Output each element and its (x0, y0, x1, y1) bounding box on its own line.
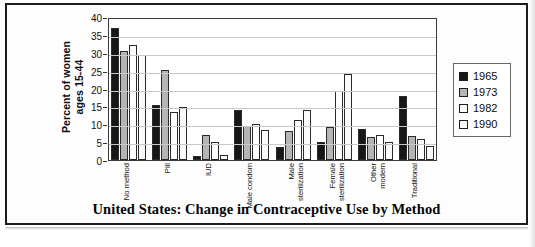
bar-1973[interactable] (408, 136, 416, 160)
bar-series-container (109, 19, 436, 160)
bar-1965[interactable] (193, 156, 201, 160)
x-tick-label: No method (122, 163, 131, 233)
y-tick-label: 10 (91, 120, 102, 131)
legend-swatch-icon (459, 88, 468, 97)
y-tick-label: 20 (91, 84, 102, 95)
y-tick-mark (103, 161, 107, 162)
gridline (109, 55, 436, 56)
bar-group (234, 19, 271, 160)
bar-group (152, 19, 189, 160)
legend-item-1990[interactable]: 1990 (459, 116, 506, 132)
y-tick-mark (103, 125, 107, 126)
gridline (109, 144, 436, 145)
x-tick-label: IUD (204, 163, 213, 233)
bar-1982[interactable] (252, 124, 260, 160)
y-tick-mark (103, 18, 107, 19)
bar-1973[interactable] (285, 131, 293, 160)
y-tick-mark (103, 90, 107, 91)
y-tick-mark (103, 54, 107, 55)
y-tick-mark (103, 143, 107, 144)
gridline (109, 108, 436, 109)
gridline (109, 91, 436, 92)
bar-group (193, 19, 230, 160)
bar-group (317, 19, 354, 160)
x-tick-label: Pill (163, 163, 172, 233)
gridline (109, 73, 436, 74)
bar-1990[interactable] (261, 130, 269, 160)
bar-1982[interactable] (170, 112, 178, 160)
y-tick-label: 0 (96, 156, 102, 167)
gridline (109, 37, 436, 38)
y-tick-label: 35 (91, 30, 102, 41)
x-tick-label: Traditional (410, 163, 419, 233)
bar-1973[interactable] (367, 137, 375, 160)
bar-1973[interactable] (161, 70, 169, 160)
bar-group (111, 19, 148, 160)
bar-1965[interactable] (399, 96, 407, 160)
bar-1982[interactable] (129, 45, 137, 160)
y-tick-mark (103, 107, 107, 108)
legend-swatch-icon (459, 72, 468, 81)
chart-area: Percent of women ages 15-44 051015202530… (7, 5, 526, 223)
y-tick-label: 5 (96, 138, 102, 149)
bar-1990[interactable] (344, 74, 352, 161)
bar-group (358, 19, 395, 160)
y-tick-label: 25 (91, 66, 102, 77)
legend-item-1982[interactable]: 1982 (459, 100, 506, 116)
bar-1982[interactable] (376, 135, 384, 160)
y-tick-label: 15 (91, 102, 102, 113)
y-tick-mark (103, 36, 107, 37)
bar-1965[interactable] (276, 147, 284, 160)
legend-label: 1982 (473, 103, 497, 114)
scanned-page: Percent of women ages 15-44 051015202530… (0, 0, 535, 247)
y-axis-ticks: 0510152025303540 (79, 18, 107, 161)
x-tick-label: Other modern (369, 163, 388, 233)
bar-group (276, 19, 313, 160)
bar-group (399, 19, 436, 160)
legend-label: 1990 (473, 119, 497, 130)
gridline (109, 126, 436, 127)
scan-edge (529, 0, 535, 247)
legend-label: 1973 (473, 87, 497, 98)
legend-item-1965[interactable]: 1965 (459, 68, 506, 84)
x-tick-label: Male condom (245, 163, 254, 233)
bar-1990[interactable] (220, 155, 228, 160)
bar-1990[interactable] (426, 146, 434, 160)
x-tick-label: Female sterilization (328, 163, 347, 233)
bar-1990[interactable] (179, 107, 187, 160)
legend-swatch-icon (459, 104, 468, 113)
y-tick-label: 40 (91, 13, 102, 24)
y-tick-mark (103, 72, 107, 73)
bar-1965[interactable] (111, 28, 119, 160)
y-tick-label: 30 (91, 48, 102, 59)
plot-box (108, 18, 437, 161)
legend-swatch-icon (459, 120, 468, 129)
bar-1982[interactable] (417, 139, 425, 160)
bar-1973[interactable] (243, 126, 251, 160)
legend-label: 1965 (473, 71, 497, 82)
chart-legend: 1965197319821990 (453, 63, 511, 137)
scan-shadow (5, 227, 528, 230)
chart-title: United States: Change in Contraceptive U… (7, 201, 526, 218)
legend-item-1973[interactable]: 1973 (459, 84, 506, 100)
x-tick-label: Male sterilization (287, 163, 306, 233)
bar-1965[interactable] (234, 110, 242, 160)
chart-frame: Percent of women ages 15-44 051015202530… (5, 3, 528, 225)
bar-1990[interactable] (303, 110, 311, 160)
bar-1965[interactable] (152, 105, 160, 160)
bar-1973[interactable] (202, 135, 210, 160)
